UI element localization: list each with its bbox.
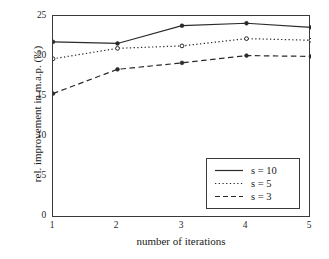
data-point <box>245 37 249 41</box>
y-axis-label: rel. improvement in m.a.p. (%) <box>31 14 43 214</box>
legend-label-s3: s = 3 <box>251 191 272 202</box>
data-point <box>309 55 311 59</box>
x-tick-label-1: 1 <box>37 220 67 230</box>
data-point <box>245 21 249 25</box>
data-point <box>309 25 311 29</box>
data-point <box>53 40 55 44</box>
chart-legend: s = 10 s = 5 s = 3 <box>206 158 300 209</box>
data-point <box>309 38 311 42</box>
data-point <box>53 92 55 96</box>
data-point <box>245 54 249 58</box>
data-point <box>116 67 120 71</box>
x-tick-label-5: 5 <box>294 220 324 230</box>
legend-item-s5: s = 5 <box>214 177 293 190</box>
data-point <box>180 44 184 48</box>
x-axis-label: number of iterations <box>52 235 310 247</box>
data-point <box>116 42 120 46</box>
x-tick-label-2: 2 <box>101 220 131 230</box>
legend-label-s5: s = 5 <box>251 178 272 189</box>
chart-figure: 0 5 10 15 20 25 1 2 3 4 5 number of iter… <box>0 0 329 259</box>
data-point <box>180 61 184 65</box>
legend-line-dotted-icon <box>214 178 244 189</box>
data-point <box>116 46 120 50</box>
x-tick-label-4: 4 <box>230 220 260 230</box>
series-line-1 <box>53 39 311 59</box>
data-point <box>180 24 184 28</box>
data-point <box>53 57 55 61</box>
legend-label-s10: s = 10 <box>251 165 277 176</box>
legend-line-dashed-icon <box>214 191 244 202</box>
legend-item-s3: s = 3 <box>214 190 293 203</box>
x-tick-label-3: 3 <box>166 220 196 230</box>
legend-line-solid-icon <box>214 165 244 176</box>
legend-item-s10: s = 10 <box>214 164 293 177</box>
